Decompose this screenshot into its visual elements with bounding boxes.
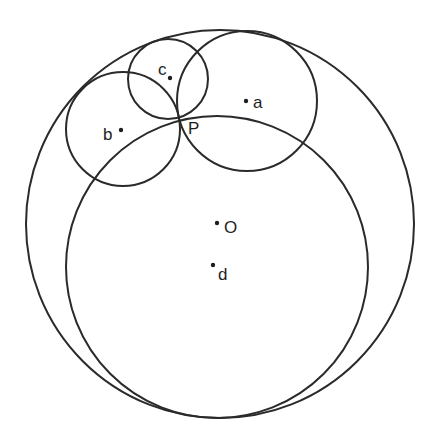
- points-group: abcPOd: [103, 60, 263, 284]
- point-O-dot: [215, 221, 219, 225]
- point-c-label: c: [158, 60, 167, 79]
- point-c-dot: [168, 76, 172, 80]
- point-b-dot: [119, 128, 123, 132]
- point-a-label: a: [253, 93, 263, 112]
- circle-c-circle: [128, 39, 208, 119]
- point-a-dot: [244, 99, 248, 103]
- circle-b-circle: [66, 72, 180, 186]
- circle-diagram: abcPOd: [0, 0, 438, 440]
- point-d-dot: [211, 263, 215, 267]
- point-O-label: O: [224, 218, 237, 237]
- point-d-label: d: [218, 265, 227, 284]
- point-P-label: P: [188, 119, 199, 138]
- circles-group: [26, 30, 414, 418]
- big-d-circle: [66, 116, 368, 418]
- point-b-label: b: [103, 125, 112, 144]
